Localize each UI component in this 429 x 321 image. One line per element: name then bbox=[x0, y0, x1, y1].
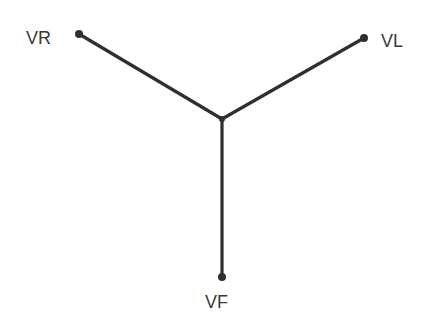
endpoint-vr bbox=[75, 30, 83, 38]
endpoint-vl bbox=[360, 34, 368, 42]
label-vr: VR bbox=[26, 28, 51, 48]
axis-lines bbox=[79, 34, 364, 277]
line-vl bbox=[222, 38, 364, 119]
endpoint-vf bbox=[218, 273, 226, 281]
label-vf: VF bbox=[205, 292, 228, 312]
line-vr bbox=[79, 34, 222, 119]
label-vl: VL bbox=[381, 31, 403, 51]
lead-axis-diagram: VR VL VF bbox=[0, 0, 429, 321]
center-junction bbox=[219, 116, 225, 122]
